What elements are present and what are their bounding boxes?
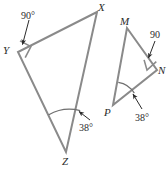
- angle-label-n-90: 90: [150, 30, 160, 40]
- vertex-label-x: X: [98, 2, 105, 13]
- angle-label-y-90: 90°: [21, 11, 35, 21]
- angle-label-z-38: 38°: [79, 123, 93, 133]
- vertex-label-y: Y: [3, 45, 9, 56]
- vertex-label-p: P: [104, 107, 111, 118]
- leader-arrow-p-38: [133, 94, 142, 109]
- angle-arc-p: [118, 82, 134, 93]
- leader-arrow-y-90: [23, 20, 30, 45]
- vertex-label-z: Z: [62, 156, 68, 167]
- geometry-canvas: [0, 0, 168, 171]
- angle-label-p-38: 38°: [135, 113, 149, 123]
- leader-arrow-n-90: [149, 41, 156, 58]
- leader-arrow-z-38: [79, 112, 90, 121]
- geometry-diagram: X Y Z M N P 90° 38° 90 38°: [0, 0, 168, 171]
- vertex-label-n: N: [158, 65, 165, 76]
- vertex-label-m: M: [120, 16, 129, 27]
